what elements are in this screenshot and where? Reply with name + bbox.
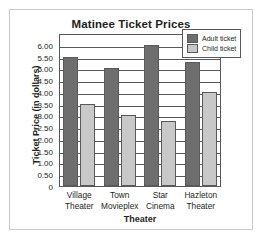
legend-swatch xyxy=(187,44,198,53)
x-axis-tick-label-line: Theater xyxy=(177,201,225,212)
y-axis-tick-label: 1.50 xyxy=(37,147,53,156)
chart-figure: Matinee Ticket Prices Ticket Price (in d… xyxy=(9,9,253,230)
bar xyxy=(63,57,78,186)
bar-group xyxy=(101,35,142,186)
y-axis-tick-label: 2.50 xyxy=(37,124,53,133)
legend-swatch xyxy=(187,34,198,43)
x-axis-title: Theater xyxy=(59,214,221,224)
x-axis-tick-label-line: Hazleton xyxy=(177,190,225,201)
y-axis-tick-label: 3.50 xyxy=(37,100,53,109)
y-axis-tick-label: 1.00 xyxy=(37,159,53,168)
bar-group xyxy=(60,35,101,186)
y-axis-tick-label: 4.00 xyxy=(37,88,53,97)
y-axis-tick-label: 5.00 xyxy=(37,65,53,74)
bar xyxy=(80,104,95,186)
legend-item: Child ticket xyxy=(187,44,236,53)
y-axis-tick-label: 5.50 xyxy=(37,53,53,62)
y-axis-tick-label: 0.50 xyxy=(37,171,53,180)
y-axis-tick-label: 4.50 xyxy=(37,77,53,86)
legend-label: Adult ticket xyxy=(202,35,236,42)
bar xyxy=(104,68,119,186)
bar xyxy=(185,62,200,186)
bar xyxy=(121,115,136,186)
legend-label: Child ticket xyxy=(202,45,236,52)
x-axis-tick-label: HazletonTheater xyxy=(177,190,225,212)
legend-item: Adult ticket xyxy=(187,34,236,43)
y-axis-tick-label: 6.00 xyxy=(37,41,53,50)
bar xyxy=(161,121,176,186)
chart-legend: Adult ticketChild ticket xyxy=(182,29,241,58)
y-axis-tick-labels: 6.005.505.004.504.003.503.002.502.001.50… xyxy=(10,34,57,187)
y-axis-tick-label: 3.00 xyxy=(37,112,53,121)
bar xyxy=(202,92,217,186)
bar xyxy=(144,45,159,186)
y-axis-tick-label: 2.00 xyxy=(37,135,53,144)
bar-group xyxy=(141,35,182,186)
y-axis-tick-label: 0 xyxy=(49,183,53,192)
